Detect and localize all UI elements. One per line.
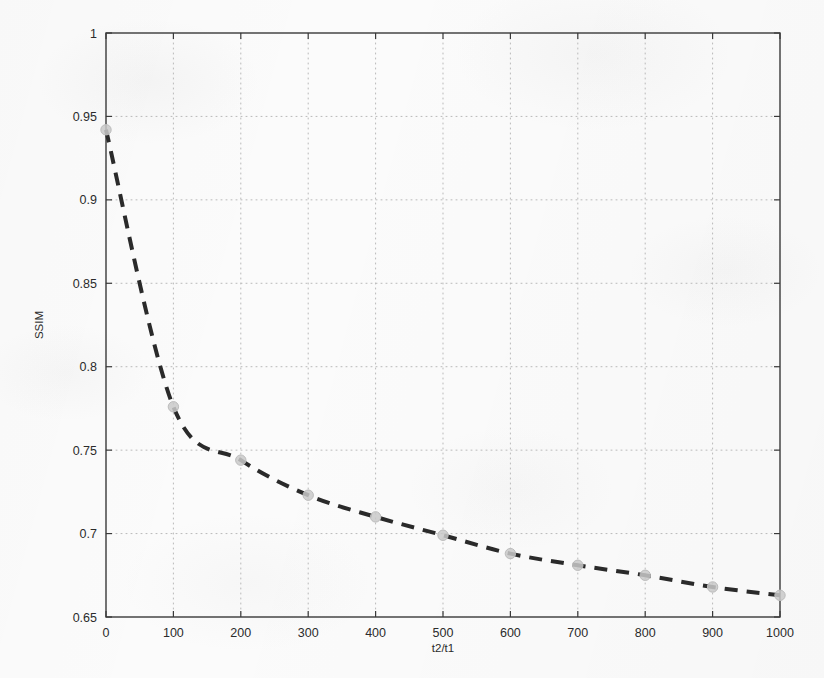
y-tick-label: 0.9 (80, 193, 97, 207)
figure-canvas: 010020030040050060070080090010000.650.70… (0, 0, 824, 678)
data-point-marker (236, 455, 246, 465)
data-point-marker (707, 582, 717, 592)
y-tick-label: 0.85 (73, 277, 97, 291)
y-tick-label: 0.7 (80, 527, 97, 541)
y-axis-label: SSIM (33, 311, 45, 339)
x-tick-label: 1000 (766, 626, 794, 640)
ssim-line-chart: 010020030040050060070080090010000.650.70… (0, 0, 824, 678)
x-tick-label: 200 (230, 626, 251, 640)
y-tick-label: 1 (90, 27, 97, 41)
y-tick-label: 0.95 (73, 110, 97, 124)
y-tick-label: 0.65 (73, 611, 97, 625)
data-point-marker (303, 490, 313, 500)
data-point-marker (775, 590, 785, 600)
x-tick-label: 0 (103, 626, 110, 640)
data-point-marker (573, 560, 583, 570)
x-tick-label: 600 (500, 626, 521, 640)
data-point-marker (438, 530, 448, 540)
data-point-marker (370, 512, 380, 522)
data-point-marker (505, 548, 515, 558)
x-tick-label: 800 (635, 626, 656, 640)
x-tick-label: 100 (163, 626, 184, 640)
x-tick-label: 400 (365, 626, 386, 640)
x-tick-label: 500 (433, 626, 454, 640)
x-axis-label: t2/t1 (432, 642, 454, 654)
x-tick-label: 900 (702, 626, 723, 640)
data-point-marker (640, 570, 650, 580)
x-tick-label: 700 (567, 626, 588, 640)
y-tick-label: 0.8 (80, 360, 97, 374)
y-tick-label: 0.75 (73, 444, 97, 458)
gridlines-group (106, 33, 780, 617)
data-point-marker (101, 125, 111, 135)
data-point-marker (168, 402, 178, 412)
axis-tick-labels: 010020030040050060070080090010000.650.70… (73, 27, 794, 641)
x-tick-label: 300 (298, 626, 319, 640)
